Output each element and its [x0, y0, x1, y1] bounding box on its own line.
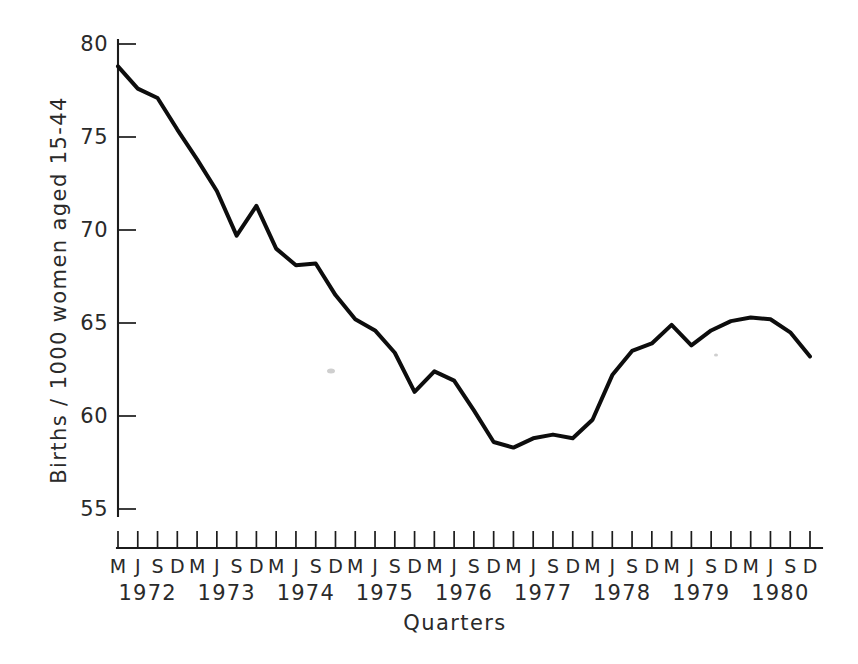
scan-speck — [327, 369, 335, 374]
y-tick-label: 55 — [80, 497, 108, 521]
x-quarter-label: D — [170, 555, 185, 577]
x-year-label: 1978 — [593, 581, 651, 605]
birth-rate-line-chart: Births / 1000 women aged 15-44 556065707… — [0, 0, 858, 664]
x-quarter-label: M — [347, 555, 363, 577]
x-year-label: 1974 — [277, 581, 335, 605]
x-quarter-label: S — [231, 555, 243, 577]
x-quarter-label: D — [328, 555, 343, 577]
x-quarter-label: J — [371, 555, 378, 577]
x-year-label: 1972 — [119, 581, 177, 605]
x-quarter-label: S — [310, 555, 322, 577]
x-quarter-label: M — [426, 555, 442, 577]
y-tick-label: 60 — [80, 404, 108, 428]
x-quarter-label: M — [110, 555, 126, 577]
x-year-label: 1977 — [514, 581, 572, 605]
x-year-label: 1976 — [435, 581, 493, 605]
y-axis-title: Births / 1000 women aged 15-44 — [47, 96, 71, 483]
x-quarter-label: S — [626, 555, 638, 577]
x-quarter-label: J — [450, 555, 457, 577]
birth-rate-series-line — [118, 66, 810, 447]
x-quarter-label: D — [565, 555, 580, 577]
x-quarter-label: S — [705, 555, 717, 577]
x-year-label: 1975 — [356, 581, 414, 605]
x-quarter-label: J — [292, 555, 299, 577]
x-quarter-label: M — [742, 555, 758, 577]
chart-figure: Births / 1000 women aged 15-44 556065707… — [0, 0, 858, 664]
x-quarter-label: M — [268, 555, 284, 577]
x-quarter-label: D — [249, 555, 264, 577]
x-quarter-label: D — [407, 555, 422, 577]
x-quarter-label: M — [505, 555, 521, 577]
x-axis-title: Quarters — [403, 611, 506, 635]
x-quarter-label: D — [645, 555, 660, 577]
x-axis-quarter-labels: MJSDMJSDMJSDMJSDMJSDMJSDMJSDMJSDMJSD — [110, 555, 818, 577]
x-quarter-label: M — [663, 555, 679, 577]
x-quarter-label: M — [584, 555, 600, 577]
y-tick-label: 75 — [80, 125, 108, 149]
x-quarter-label: S — [468, 555, 480, 577]
x-quarter-label: M — [189, 555, 205, 577]
y-tick-label: 80 — [80, 32, 108, 56]
y-axis-ticks: 556065707580 — [80, 32, 136, 521]
x-quarter-label: D — [724, 555, 739, 577]
x-quarter-label: J — [608, 555, 615, 577]
y-tick-label: 70 — [80, 218, 108, 242]
x-quarter-label: D — [803, 555, 818, 577]
x-quarter-label: D — [486, 555, 501, 577]
x-quarter-label: J — [134, 555, 141, 577]
x-quarter-label: S — [784, 555, 796, 577]
x-quarter-label: S — [389, 555, 401, 577]
x-year-label: 1979 — [672, 581, 730, 605]
x-quarter-label: S — [152, 555, 164, 577]
x-axis-year-labels: 197219731974197519761977197819791980 — [119, 581, 810, 605]
x-year-label: 1980 — [751, 581, 809, 605]
x-quarter-label: J — [529, 555, 536, 577]
x-quarter-label: J — [767, 555, 774, 577]
y-tick-label: 65 — [80, 311, 108, 335]
scan-speck — [714, 354, 718, 357]
x-year-label: 1973 — [198, 581, 256, 605]
x-axis-ticks — [118, 531, 810, 548]
x-quarter-label: J — [213, 555, 220, 577]
x-quarter-label: J — [688, 555, 695, 577]
x-quarter-label: S — [547, 555, 559, 577]
